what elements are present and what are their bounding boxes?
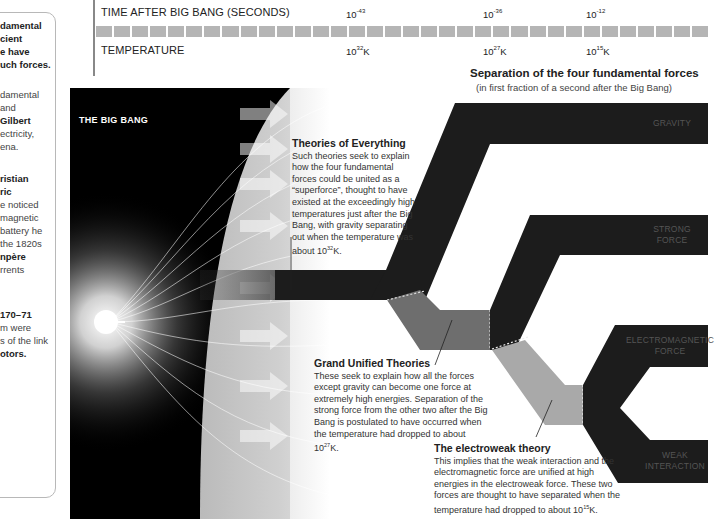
- note-theories-of-everything: Theories of Everything Such theories see…: [292, 138, 420, 258]
- big-bang-label: THE BIG BANG: [79, 115, 148, 125]
- note-grand-unified-theories: Grand Unified Theories These seek to exp…: [314, 358, 489, 455]
- gut-segment: [387, 290, 490, 350]
- em-force-label: ELECTROMAGNETICFORCE: [610, 335, 719, 357]
- note-electroweak-theory: The electroweak theory This implies that…: [434, 443, 624, 517]
- superforce-band-solid: [275, 270, 387, 300]
- gravity-label: GRAVITY: [636, 118, 708, 129]
- weak-interaction-label: WEAKINTERACTION: [630, 450, 719, 472]
- electroweak-segment: [492, 340, 583, 425]
- strong-force-label: STRONGFORCE: [636, 224, 708, 246]
